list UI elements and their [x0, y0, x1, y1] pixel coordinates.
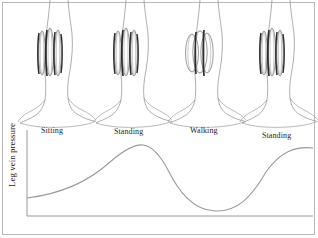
chart-layer — [0, 0, 318, 238]
pressure-curve — [27, 145, 313, 211]
y-axis-label: Leg vein pressure — [7, 110, 17, 200]
leg-vein-pressure-figure: Sitting Standing Walking Standing Leg ve… — [0, 0, 318, 238]
